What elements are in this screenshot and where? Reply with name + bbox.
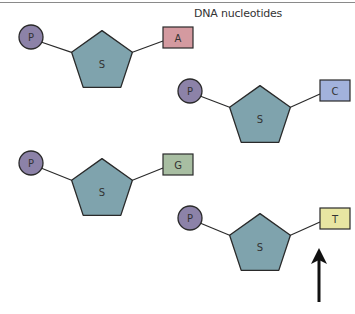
sugar-label: S [99,59,105,70]
sugar-base-bond [132,168,163,180]
base-label: T [331,214,339,225]
phosphate-label: P [187,86,193,97]
phosphate-sugar-bond [200,96,230,107]
arrow-icon [311,248,327,302]
sugar-base-bond [290,222,320,235]
sugar-base-bond [290,94,320,107]
phosphate-sugar-bond [41,168,72,180]
sugar-label: S [99,187,105,198]
nucleotide-C: PSC [178,79,350,142]
phosphate-label: P [28,32,34,43]
phosphate-sugar-bond [41,42,72,52]
nucleotide-diagram: PSAPSCPSGPST [0,0,355,314]
sugar-label: S [257,114,263,125]
base-label: C [332,86,339,97]
phosphate-label: P [187,213,193,224]
base-label: G [174,160,182,171]
nucleotide-G: PSG [19,151,193,215]
phosphate-sugar-bond [200,223,230,235]
phosphate-label: P [28,158,34,169]
base-label: A [175,33,182,44]
sugar-label: S [257,242,263,253]
sugar-base-bond [132,41,163,52]
nucleotide-A: PSA [19,25,193,87]
